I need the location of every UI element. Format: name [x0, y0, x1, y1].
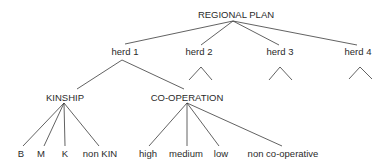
node-herd-4: herd 4	[345, 46, 372, 57]
leaf-non-co-operative: non co-operative	[248, 148, 319, 159]
node-herd-2: herd 2	[186, 46, 213, 57]
leaf-medium: medium	[169, 148, 203, 159]
node-herd-3: herd 3	[267, 46, 294, 57]
leaf-k: K	[62, 148, 68, 159]
leaf-non-kin: non KIN	[83, 148, 117, 159]
leaf-high: high	[139, 148, 157, 159]
leaf-b: B	[18, 148, 24, 159]
root-node-regional-plan: REGIONAL PLAN	[198, 9, 274, 20]
node-herd-1: herd 1	[112, 46, 139, 57]
node-co-operation: CO-OPERATION	[151, 92, 224, 103]
leaf-low: low	[214, 148, 228, 159]
node-kinship: KINSHIP	[46, 92, 84, 103]
leaf-m: M	[37, 148, 45, 159]
tree-edges	[0, 0, 386, 167]
